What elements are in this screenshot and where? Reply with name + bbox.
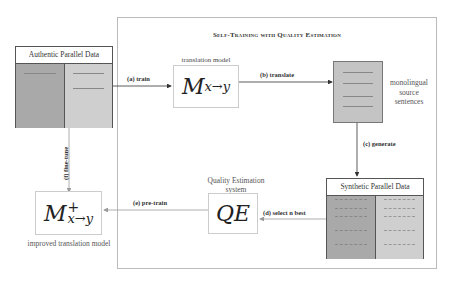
edge-label-generate: (c) generate	[363, 140, 396, 147]
synthetic-data-label: Synthetic Parallel Data	[327, 179, 423, 196]
source-column	[327, 196, 376, 259]
translation-model-caption: translation model	[162, 56, 250, 64]
synthetic-parallel-data: Synthetic Parallel Data	[326, 178, 424, 259]
monolingual-caption: monolingual source sentences	[384, 78, 434, 107]
improved-model-symbol: M	[44, 201, 67, 226]
target-column	[65, 64, 113, 128]
monolingual-document	[333, 61, 383, 123]
authentic-data-label: Authentic Parallel Data	[16, 47, 112, 64]
translation-model-box: Mx→y	[173, 65, 239, 108]
qe-symbol: QE	[216, 201, 250, 226]
improved-model-subscript: x→y	[67, 213, 93, 224]
authentic-parallel-data: Authentic Parallel Data	[15, 46, 113, 128]
edge-label-pretrain: (e) pre-train	[133, 199, 167, 206]
source-column	[16, 64, 65, 128]
improved-model-box: M+x→y	[35, 191, 102, 235]
qe-system-box: QE	[208, 193, 258, 234]
edge-label-finetune: (f) fine-tune	[62, 147, 69, 180]
improved-model-caption: improved translation model	[10, 239, 128, 248]
edge-label-translate: (b) translate	[260, 71, 294, 78]
edge-label-select: (d) select n best	[263, 209, 306, 216]
edge-label-train: (a) train	[127, 75, 150, 82]
model-subscript: x→y	[204, 79, 230, 94]
qe-caption: Quality Estimation system	[196, 176, 276, 194]
model-symbol: M	[182, 74, 205, 99]
target-column	[376, 196, 424, 259]
